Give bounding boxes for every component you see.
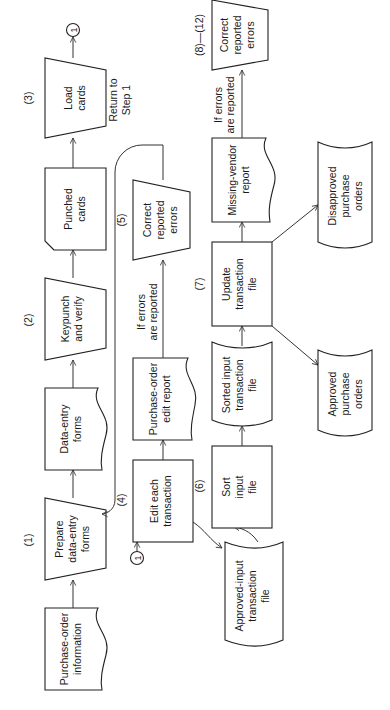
label: file bbox=[246, 378, 258, 392]
condition-label: If errors bbox=[212, 87, 224, 123]
process-prepare-forms: Prepare data-entry forms bbox=[45, 498, 106, 580]
label: 1 bbox=[133, 555, 143, 560]
process-correct-errors-5: Correct reported errors bbox=[133, 180, 190, 260]
label: transaction bbox=[233, 258, 245, 310]
label: file bbox=[246, 480, 258, 494]
condition-label: are reported bbox=[224, 76, 236, 133]
label: transaction bbox=[161, 475, 173, 527]
label: Missing-vendor bbox=[226, 144, 238, 216]
label: Punched bbox=[62, 188, 74, 230]
storage-approved-input-file: Approved-input transaction file bbox=[225, 542, 283, 646]
label: reported bbox=[154, 200, 166, 239]
label: data-entry bbox=[66, 515, 78, 563]
process-correct-errors-8-12: Correct reported errors bbox=[212, 0, 268, 70]
document-po-information: Purchase-order information bbox=[45, 608, 107, 690]
condition-label: are reported bbox=[147, 283, 159, 340]
label: forms bbox=[71, 416, 83, 442]
step-number: (5) bbox=[115, 214, 127, 227]
label: forms bbox=[79, 526, 91, 552]
arrow bbox=[272, 326, 318, 365]
process-keypunch-verify: Keypunch and verify bbox=[45, 278, 106, 360]
label: purchase bbox=[339, 372, 351, 415]
document-data-entry-forms: Data-entry forms bbox=[45, 388, 107, 470]
label: Update bbox=[220, 267, 232, 301]
step-number: (8)—(12) bbox=[193, 14, 205, 56]
label: cards bbox=[75, 85, 87, 111]
condition-label: If errors bbox=[135, 294, 147, 330]
step-number: (7) bbox=[193, 278, 205, 291]
label: Correct bbox=[218, 18, 230, 53]
document-edit-report: Purchase-order edit report bbox=[133, 358, 196, 440]
label: Load bbox=[62, 86, 74, 110]
label: Edit each bbox=[148, 479, 160, 523]
label: purchase bbox=[339, 174, 351, 217]
storage-approved-po: Approved purchase orders bbox=[318, 350, 372, 436]
step-number: (4) bbox=[115, 494, 127, 507]
document-missing-vendor: Missing-vendor report bbox=[212, 138, 275, 222]
step-number: (6) bbox=[193, 480, 205, 493]
label: input bbox=[233, 476, 245, 499]
label: errors bbox=[167, 206, 179, 233]
label: Sort bbox=[220, 477, 232, 496]
label: Keypunch bbox=[59, 295, 71, 342]
label: Sorted input bbox=[220, 357, 232, 414]
punched-cards: Punched cards bbox=[45, 168, 106, 250]
arrow bbox=[234, 527, 258, 542]
label: Purchase-order bbox=[147, 362, 159, 435]
label: errors bbox=[244, 21, 256, 48]
arrow bbox=[272, 205, 318, 242]
label: transaction bbox=[246, 570, 258, 622]
flowchart-diagram: Purchase-order information (1) Prepare d… bbox=[0, 0, 390, 710]
storage-sorted-input-file: Sorted input transaction file bbox=[212, 342, 272, 426]
label: Disapproved bbox=[326, 166, 338, 225]
process-update-transaction: Update transaction file bbox=[212, 242, 272, 326]
label: 1 bbox=[69, 27, 79, 32]
process-load-cards: Load cards bbox=[45, 58, 106, 138]
process-edit-transaction: Edit each transaction bbox=[133, 460, 193, 542]
label: report bbox=[239, 166, 251, 194]
label: file bbox=[246, 277, 258, 291]
label: cards bbox=[75, 196, 87, 222]
step-number: (3) bbox=[22, 92, 34, 105]
label: and verify bbox=[72, 295, 84, 341]
step-number: (1) bbox=[22, 534, 34, 547]
label: file bbox=[259, 589, 271, 603]
label: Prepare bbox=[53, 520, 65, 558]
off-page-connector-out: 1 bbox=[67, 24, 80, 37]
storage-disapproved-po: Disapproved purchase orders bbox=[318, 142, 372, 248]
label: Approved-input bbox=[233, 560, 245, 631]
label: transaction bbox=[233, 359, 245, 411]
label: reported bbox=[231, 15, 243, 54]
label: edit report bbox=[160, 375, 172, 422]
process-sort-input: Sort input file bbox=[212, 446, 272, 528]
label: Data-entry bbox=[58, 404, 70, 454]
return-label: Return to bbox=[107, 78, 119, 121]
label: orders bbox=[352, 181, 364, 211]
step-number: (2) bbox=[22, 314, 34, 327]
label: orders bbox=[352, 379, 364, 409]
off-page-connector-in: 1 bbox=[131, 552, 144, 565]
label: information bbox=[71, 623, 83, 675]
label: Purchase-order bbox=[58, 612, 70, 685]
label: Approved bbox=[326, 371, 338, 416]
label: Correct bbox=[141, 203, 153, 238]
return-label: Step 1 bbox=[120, 85, 132, 116]
